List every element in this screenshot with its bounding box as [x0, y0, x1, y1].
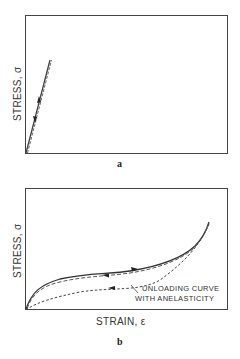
panel-b-annotation-leader	[131, 285, 138, 293]
panel-a-loading-line	[26, 60, 50, 153]
figure-canvas: STRESS, σ a STRESS, σ UNLOADING CURVE WI…	[0, 0, 240, 359]
panel-a-unloading-line	[28, 60, 52, 153]
panel-b-label: b	[117, 336, 123, 347]
panel-b-y-axis-label: STRESS, σ	[12, 223, 23, 278]
panel-b: STRESS, σ UNLOADING CURVE WITH ANELASTIC…	[12, 189, 228, 348]
panel-a-frame	[26, 16, 228, 154]
panel-b-x-axis-label: STRAIN, ε	[96, 316, 146, 327]
panel-a-y-axis-label: STRESS, σ	[12, 66, 23, 121]
panel-a: STRESS, σ a	[12, 16, 228, 170]
panel-b-annotation-line2: WITH ANELASTICITY	[135, 294, 214, 303]
panel-b-annotation-line1: UNLOADING CURVE	[142, 284, 219, 293]
panel-a-label: a	[117, 158, 122, 169]
